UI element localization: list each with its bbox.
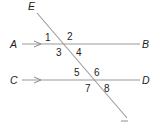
- angle-label-2: 2: [67, 31, 73, 42]
- point-label-b: B: [142, 38, 149, 50]
- angle-label-7: 7: [85, 83, 91, 94]
- point-label-a: A: [9, 38, 17, 50]
- angle-label-6: 6: [94, 67, 100, 78]
- angle-label-3: 3: [56, 47, 62, 58]
- point-label-c: C: [10, 74, 18, 86]
- point-label-e: E: [28, 0, 36, 12]
- angle-label-8: 8: [104, 83, 110, 94]
- angle-label-4: 4: [76, 47, 82, 58]
- transversal-line: [37, 13, 127, 118]
- diagram-canvas: E A B C D 1 2 3 4 5 6 7 8: [0, 0, 155, 123]
- point-label-d: D: [142, 74, 150, 86]
- angle-label-1: 1: [45, 32, 51, 43]
- angle-label-5: 5: [74, 67, 80, 78]
